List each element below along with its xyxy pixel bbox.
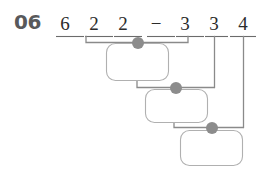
answer-box-1[interactable] [107,44,168,80]
answer-box-2[interactable] [146,90,207,122]
worksheet-canvas: 06 6 2 2 − 3 3 4 [0,0,262,178]
answer-box-3[interactable] [181,131,242,165]
